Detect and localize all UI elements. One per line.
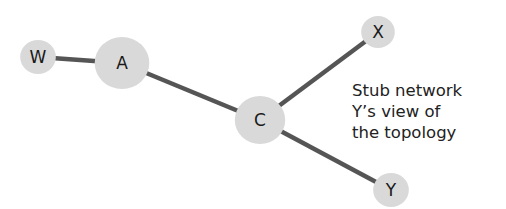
node-a: A — [95, 37, 150, 89]
nodes: WACXY — [20, 16, 409, 207]
caption-line-3: the topology — [352, 122, 462, 143]
node-x: X — [361, 16, 395, 48]
node-label: A — [116, 53, 128, 73]
node-label: C — [254, 110, 266, 130]
diagram-caption: Stub network Y’s view of the topology — [352, 80, 462, 143]
node-label: W — [30, 47, 47, 67]
node-w: W — [20, 40, 56, 74]
caption-line-2: Y’s view of — [352, 101, 462, 122]
caption-line-1: Stub network — [352, 80, 462, 101]
node-c: C — [235, 96, 285, 144]
node-label: Y — [385, 180, 397, 200]
edges — [38, 32, 391, 190]
node-y: Y — [373, 173, 409, 207]
node-label: X — [372, 22, 384, 42]
